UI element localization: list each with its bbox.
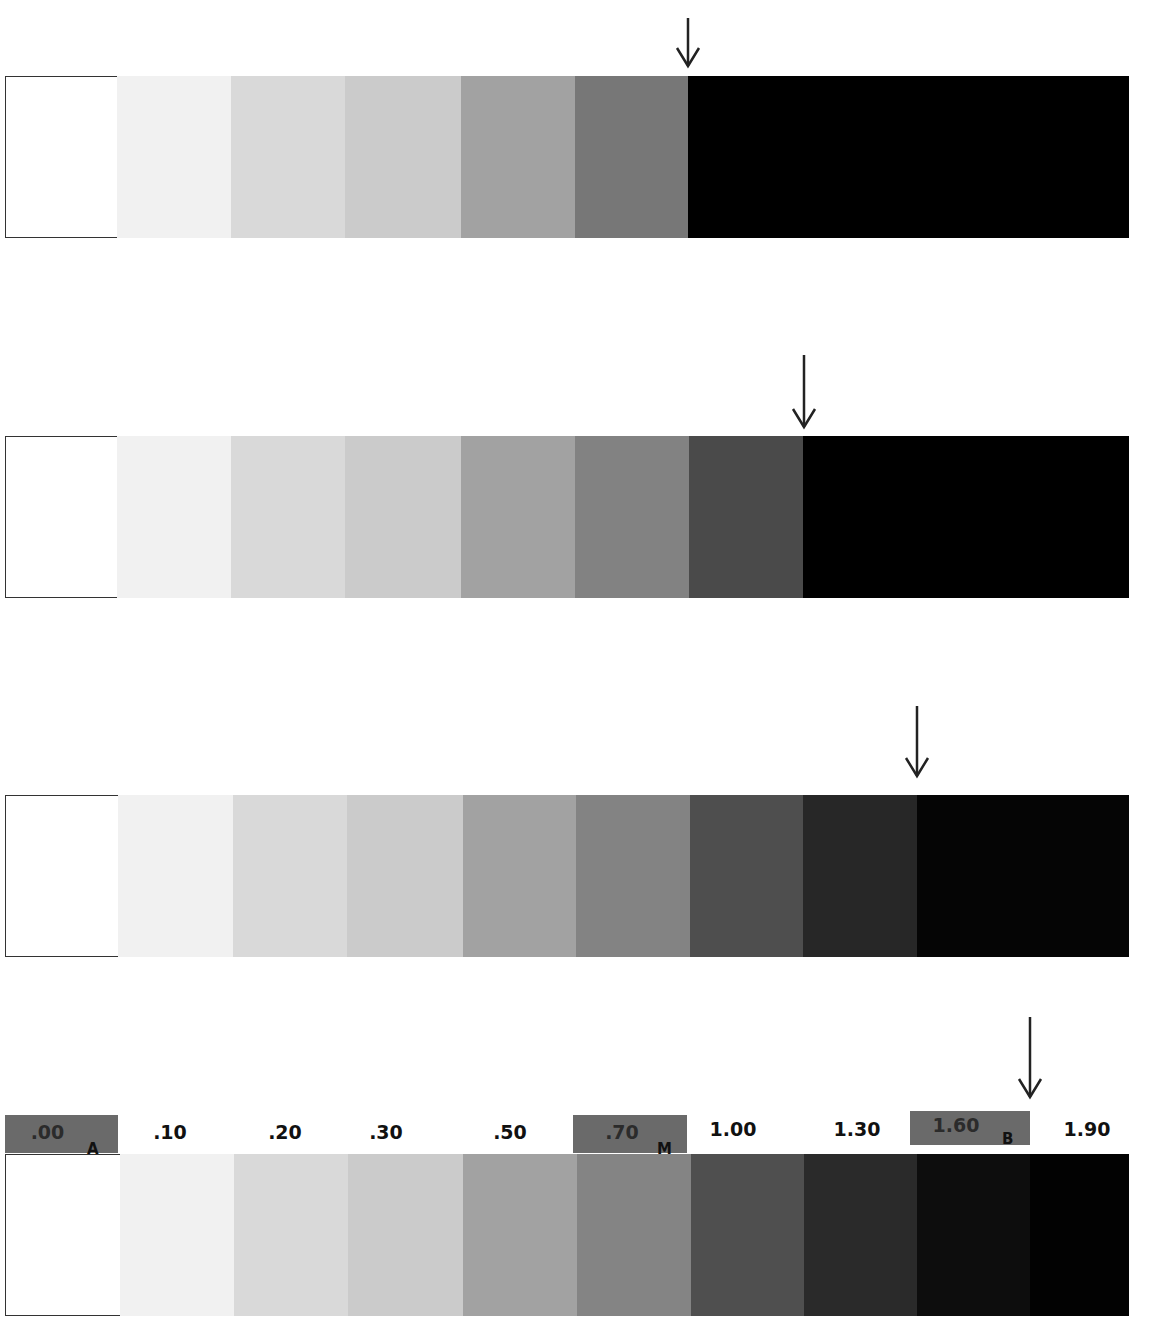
density-label-000: .00 A: [5, 1115, 118, 1153]
density-value: .00: [31, 1121, 65, 1143]
density-label-010: .10: [130, 1115, 210, 1153]
step-5: [461, 436, 575, 598]
arrow-down-icon: [1015, 1017, 1045, 1101]
density-label-100: 1.00: [693, 1115, 773, 1153]
step-wedge-strip-4: [5, 1154, 1129, 1316]
arrow-down-icon: [673, 18, 703, 70]
step-5: [463, 795, 576, 957]
step-6: [577, 1154, 691, 1316]
density-label-050: .50: [470, 1115, 550, 1153]
step-4: [345, 436, 461, 598]
step-4: [348, 1154, 463, 1316]
step-1: [5, 76, 117, 238]
density-label-130: 1.30: [817, 1115, 897, 1153]
density-label-160: 1.60 B: [910, 1111, 1030, 1145]
density-label-030: .30: [346, 1115, 426, 1153]
marker-letter-b: B: [1002, 1132, 1013, 1147]
step-2: [118, 795, 233, 957]
arrow-down-icon: [789, 355, 819, 431]
density-label-190: 1.90: [1047, 1115, 1127, 1153]
step-5: [461, 76, 575, 238]
step-2: [117, 436, 231, 598]
step-wedge-strip-1: [5, 76, 1129, 238]
step-3: [231, 436, 345, 598]
step-10: [1030, 1154, 1129, 1316]
step-4: [347, 795, 463, 957]
density-label-020: .20: [245, 1115, 325, 1153]
step-7: [690, 795, 803, 957]
density-value: 1.60: [933, 1114, 980, 1136]
step-wedge-strip-2: [5, 436, 1129, 598]
density-scale: .00 A .10 .20 .30 .50 .70 M 1.00 1.30 1.…: [0, 1115, 1166, 1153]
step-1: [5, 436, 117, 598]
step-3: [233, 795, 347, 957]
step-1: [5, 1154, 120, 1316]
step-6: [575, 436, 689, 598]
density-label-070: .70 M: [573, 1115, 687, 1153]
step-3: [234, 1154, 348, 1316]
step-7: [691, 1154, 804, 1316]
step-6: [576, 795, 690, 957]
step-wedge-strip-3: [5, 795, 1129, 957]
step-black-merged: [917, 795, 1129, 957]
step-4: [345, 76, 461, 238]
step-1: [5, 795, 118, 957]
step-9: [917, 1154, 1030, 1316]
step-2: [120, 1154, 234, 1316]
step-black-merged: [688, 76, 1129, 238]
step-6: [575, 76, 688, 238]
step-black-merged: [803, 436, 1129, 598]
step-3: [231, 76, 345, 238]
arrow-down-icon: [902, 706, 932, 780]
density-value: .70: [605, 1121, 639, 1143]
step-8: [804, 1154, 917, 1316]
step-8: [803, 795, 917, 957]
step-5: [463, 1154, 577, 1316]
step-7: [689, 436, 803, 598]
step-2: [117, 76, 231, 238]
